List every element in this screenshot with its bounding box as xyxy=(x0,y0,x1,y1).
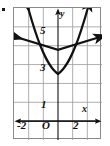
coordinate-graph-figure: 5 3 1 -2 O 2 y x xyxy=(0,0,110,146)
x-tick-label-2: 2 xyxy=(73,120,79,131)
x-tick-label-minus2: -2 xyxy=(17,120,26,131)
x-axis-name-label: x xyxy=(82,104,87,114)
plot-frame xyxy=(13,7,101,139)
y-axis-name-label: y xyxy=(60,9,64,19)
bullet-marker xyxy=(2,8,5,11)
y-tick-label-1: 1 xyxy=(41,99,47,110)
y-tick-label-5: 5 xyxy=(40,25,46,36)
y-tick-label-3: 3 xyxy=(40,62,46,73)
origin-label: O xyxy=(42,120,50,131)
graph-canvas xyxy=(14,8,102,140)
